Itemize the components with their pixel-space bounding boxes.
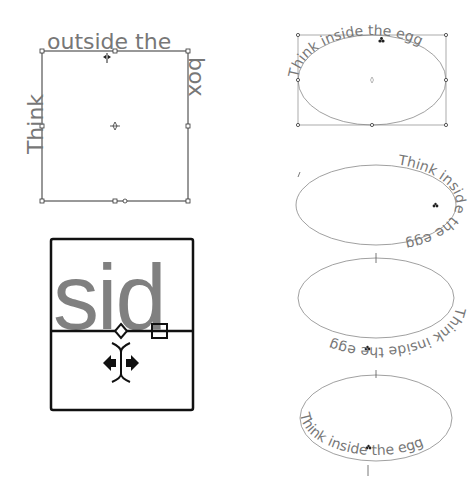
selection-handle[interactable] bbox=[296, 33, 299, 36]
path-text-right: box bbox=[184, 57, 209, 97]
path-text-top: outside the bbox=[47, 29, 171, 54]
ellipse-1-figure: Think inside the egg bbox=[285, 22, 448, 127]
selection-handle[interactable] bbox=[113, 199, 117, 203]
center-point-icon bbox=[371, 77, 374, 83]
selection-handle[interactable] bbox=[40, 199, 44, 203]
path-text-left: Think bbox=[23, 94, 48, 155]
selection-handle[interactable] bbox=[296, 123, 299, 126]
zoom-glyphs: sid bbox=[53, 246, 165, 348]
selection-handle[interactable] bbox=[296, 78, 299, 81]
path-text: Think inside the egg bbox=[297, 410, 426, 458]
zoom-detail-figure: sid bbox=[51, 239, 193, 410]
ellipse-4-figure: Think inside the egg bbox=[297, 370, 452, 476]
path-type-cursor-icon bbox=[103, 343, 139, 382]
path-text-start-icon bbox=[433, 203, 439, 208]
selection-handle[interactable] bbox=[40, 49, 44, 53]
path-text: Think inside the egg bbox=[396, 152, 469, 254]
selection-handle[interactable] bbox=[370, 123, 373, 126]
selection-handle[interactable] bbox=[186, 49, 190, 53]
selection-handle[interactable] bbox=[444, 78, 447, 81]
path-text: Think inside the egg bbox=[285, 22, 426, 80]
ellipse-3-figure: Think inside the egg bbox=[298, 253, 469, 361]
illustration-canvas: Think outside the box sid bbox=[0, 0, 472, 490]
center-point-icon bbox=[110, 122, 120, 130]
square-path-text-figure: Think outside the box bbox=[23, 29, 209, 203]
selection-handle[interactable] bbox=[444, 123, 447, 126]
selection-handle[interactable] bbox=[186, 199, 190, 203]
selection-handle[interactable] bbox=[444, 33, 447, 36]
path-end-handle[interactable] bbox=[123, 199, 127, 203]
ellipse-2-figure: Think inside the egg bbox=[296, 152, 469, 254]
path-text-start-icon bbox=[103, 53, 111, 63]
selection-handle[interactable] bbox=[186, 124, 190, 128]
path-start-tick bbox=[298, 172, 300, 177]
ellipse-path bbox=[298, 258, 454, 338]
